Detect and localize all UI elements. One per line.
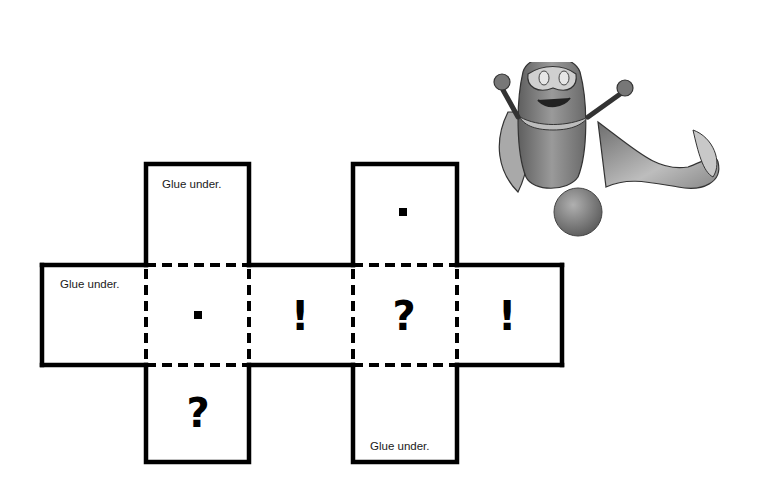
superhero-mascot-illustration — [488, 62, 728, 252]
face-top-dot-square — [399, 208, 407, 216]
face-exclaim-2: ! — [487, 296, 527, 336]
glue-label-left-tab: Glue under. — [60, 278, 119, 290]
face-question-2: ? — [176, 393, 220, 433]
face-exclaim-1: ! — [280, 296, 320, 336]
glue-label-bottom-right-tab: Glue under. — [370, 440, 429, 452]
face-question-1: ? — [382, 296, 426, 336]
face-dot-square — [194, 311, 202, 319]
glue-label-top-left-tab: Glue under. — [162, 178, 221, 190]
